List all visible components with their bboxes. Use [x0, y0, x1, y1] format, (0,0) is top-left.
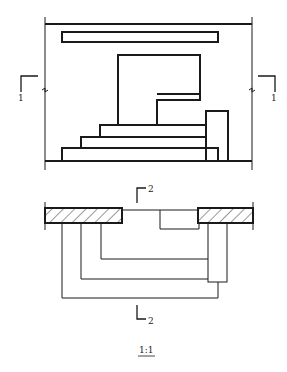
- section-label-1-right: 1: [271, 93, 277, 103]
- section-marker-2-top: [137, 188, 146, 203]
- scale-label: 1:1: [139, 345, 153, 355]
- section-label-2-bottom: 2: [148, 316, 154, 326]
- section-marker-1-left: [21, 76, 38, 92]
- recess: [160, 210, 199, 229]
- step-3: [62, 148, 218, 161]
- tall-block: [118, 55, 200, 125]
- slab-right: [198, 208, 253, 223]
- section-marker-2-bottom: [137, 305, 146, 319]
- elevation-view: [42, 17, 255, 170]
- outline-inner: [101, 223, 208, 259]
- column-section: [208, 223, 227, 282]
- section-label-2-top: 2: [148, 184, 154, 194]
- outline-outer: [62, 223, 218, 298]
- outline-middle: [81, 223, 208, 279]
- section-marker-1-right: [258, 76, 275, 92]
- section-label-1-left: 1: [18, 93, 24, 103]
- slab-left: [45, 208, 122, 223]
- technical-drawing: 1 1 2 2 1:1: [0, 0, 287, 372]
- step-1: [100, 125, 206, 137]
- step-2: [81, 137, 206, 148]
- section-view: [45, 202, 253, 298]
- top-bar: [62, 32, 218, 42]
